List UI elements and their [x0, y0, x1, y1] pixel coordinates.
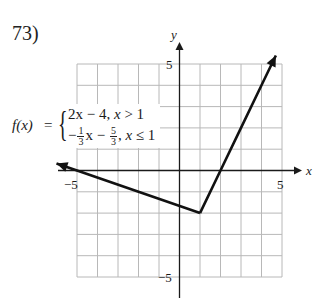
case-1-expr: 2x − 4,: [68, 106, 114, 122]
case-1-cond: > 1: [121, 106, 144, 122]
y-axis-label: y: [171, 27, 177, 43]
x-tick-5: 5: [277, 177, 284, 193]
x-axis-arrow-icon: [294, 167, 302, 175]
y-axis-arrow-icon: [176, 42, 184, 50]
y-tick-5: 5: [166, 57, 173, 73]
brace-symbol: {: [58, 106, 68, 142]
case-2-mid: x −: [85, 127, 108, 143]
case-2-sign: −: [68, 127, 76, 143]
function-name: f(x): [12, 118, 33, 133]
y-tick-neg5: −5: [158, 270, 172, 286]
equals-sign: =: [44, 118, 52, 133]
fraction-one-third: 13: [77, 126, 84, 147]
axes: [58, 42, 302, 298]
case-2-cond: ≤ 1: [132, 127, 155, 143]
coordinate-plane: [0, 0, 319, 298]
fraction-five-thirds: 53: [110, 126, 117, 147]
case-1: 2x − 4, x > 1: [68, 107, 144, 122]
x-tick-neg5: −5: [64, 177, 78, 193]
function-segment-2: [200, 55, 276, 213]
problem-number: 73): [12, 22, 39, 45]
piecewise-formula: f(x) = { 2x − 4, x > 1 −13x − 53, x ≤ 1: [8, 104, 160, 148]
case-1-var: x: [114, 106, 121, 122]
case-2: −13x − 53, x ≤ 1: [68, 126, 155, 147]
x-axis-label: x: [306, 163, 312, 179]
